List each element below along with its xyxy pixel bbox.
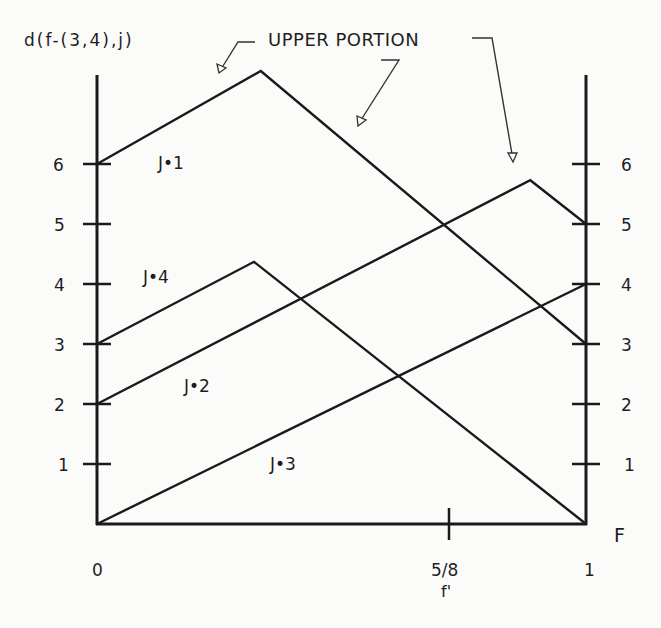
y-left-label-5: 5 [54, 215, 65, 235]
series-line-j2 [97, 180, 586, 404]
annotation-arrow-1 [217, 42, 255, 73]
series-label-j4: J•4 [142, 267, 169, 287]
y-right-label-2: 2 [621, 395, 632, 415]
series-label-j3: J•3 [269, 454, 296, 474]
y-left-label-2: 2 [54, 395, 65, 415]
y-left-label-4: 4 [54, 275, 65, 295]
series-line-j1 [97, 71, 586, 344]
y-right-label-5: 5 [621, 215, 632, 235]
y-axis-title: d(f-(3,4),j) [24, 30, 134, 50]
x-label-5-8: 5/8 [431, 560, 458, 580]
series-layer [97, 71, 586, 524]
x-label-1: 1 [584, 560, 595, 580]
chart-svg: 1 2 3 4 5 6 1 2 3 4 5 6 0 5/8 f' 1 F d(f… [0, 0, 661, 628]
y-left-label-6: 6 [53, 155, 64, 175]
y-right-label-3: 3 [621, 335, 632, 355]
annotation-arrow-3 [472, 38, 517, 162]
x-label-f-prime: f' [441, 582, 451, 601]
y-right-label-1: 1 [624, 455, 635, 475]
x-axis-title: F [614, 524, 625, 546]
y-right-label-6: 6 [621, 155, 632, 175]
y-right-label-4: 4 [621, 275, 632, 295]
y-left-label-3: 3 [54, 335, 65, 355]
chart-figure: 1 2 3 4 5 6 1 2 3 4 5 6 0 5/8 f' 1 F d(f… [0, 0, 661, 628]
series-label-j1: J•1 [157, 153, 184, 173]
series-line-j3 [97, 284, 586, 524]
upper-portion-annotation: UPPER PORTION [268, 29, 419, 50]
series-line-j4 [97, 262, 586, 524]
annotation-arrow-2 [357, 60, 399, 126]
series-label-j2: J•2 [183, 376, 210, 396]
x-label-0: 0 [92, 560, 103, 580]
y-left-label-1: 1 [58, 455, 69, 475]
